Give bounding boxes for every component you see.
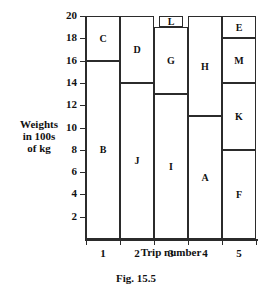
bar-segment[interactable]: M bbox=[222, 38, 256, 83]
plot-area: 2468101214161820 12345 BCJDIGLAHFKME bbox=[86, 16, 256, 239]
bar-segment[interactable]: A bbox=[188, 116, 222, 239]
stacked-bar[interactable]: IGL bbox=[154, 16, 188, 239]
x-axis-title: Trip number bbox=[86, 246, 256, 258]
bar-segment-label: K bbox=[235, 111, 243, 122]
bar-segment[interactable]: I bbox=[154, 94, 188, 239]
bar-segment[interactable]: F bbox=[222, 150, 256, 239]
y-axis-tick-label: 4 bbox=[72, 187, 78, 199]
x-axis-tick bbox=[222, 239, 223, 245]
stacked-bar[interactable]: JD bbox=[120, 16, 154, 239]
bar-segment[interactable]: C bbox=[86, 16, 120, 61]
bar-segment[interactable]: E bbox=[222, 16, 256, 38]
bar-segment[interactable]: D bbox=[120, 16, 154, 83]
y-axis-tick-label: 12 bbox=[66, 98, 77, 110]
bar-segment-label: L bbox=[168, 16, 175, 27]
y-axis-tick-label: 18 bbox=[66, 31, 77, 43]
x-axis-tick bbox=[188, 239, 189, 245]
bar-segment-label: F bbox=[236, 189, 242, 200]
bar-segment-label: J bbox=[135, 155, 140, 166]
figure-caption: Fig. 15.5 bbox=[0, 272, 272, 284]
y-axis-tick-label: 2 bbox=[72, 210, 78, 222]
stacked-bar[interactable]: FKME bbox=[222, 16, 256, 239]
y-axis-tick-label: 8 bbox=[72, 143, 78, 155]
y-axis-title-line-1: Weights bbox=[4, 118, 74, 130]
figure: Weights in 100s of kg 2468101214161820 1… bbox=[0, 0, 272, 306]
bar-segment-label: E bbox=[236, 22, 243, 33]
bar-segment[interactable]: G bbox=[154, 27, 188, 94]
y-axis-tick-label: 20 bbox=[66, 9, 77, 21]
bar-segment-label: H bbox=[201, 61, 209, 72]
bar-segment-label: D bbox=[133, 44, 140, 55]
y-axis-title-line-2: in 100s bbox=[4, 130, 74, 142]
bar-segment[interactable]: J bbox=[120, 83, 154, 239]
x-axis-line bbox=[85, 239, 258, 241]
bar-segment[interactable]: K bbox=[222, 83, 256, 150]
bar-segment-label: G bbox=[167, 55, 175, 66]
bar-segment[interactable]: B bbox=[86, 61, 120, 239]
bar-segment-label: A bbox=[201, 172, 208, 183]
x-axis-tick bbox=[86, 239, 87, 245]
bar-segment-label: I bbox=[169, 161, 173, 172]
bar-segment[interactable]: H bbox=[188, 16, 222, 116]
bar-segment-label: C bbox=[99, 33, 106, 44]
y-axis-tick-label: 6 bbox=[72, 165, 78, 177]
bar-segment[interactable]: L bbox=[159, 16, 183, 27]
x-axis-tick bbox=[120, 239, 121, 245]
x-axis-tick bbox=[256, 239, 257, 245]
x-axis-tick bbox=[154, 239, 155, 245]
bar-segment-label: M bbox=[234, 55, 243, 66]
y-axis-tick-label: 10 bbox=[66, 121, 77, 133]
y-axis-title: Weights in 100s of kg bbox=[4, 118, 74, 154]
y-axis-tick-label: 14 bbox=[66, 76, 77, 88]
y-axis-title-line-3: of kg bbox=[4, 142, 74, 154]
stacked-bar[interactable]: BC bbox=[86, 16, 120, 239]
stacked-bar[interactable]: AH bbox=[188, 16, 222, 239]
y-axis-tick-label: 16 bbox=[66, 54, 77, 66]
bar-segment-label: B bbox=[100, 144, 107, 155]
